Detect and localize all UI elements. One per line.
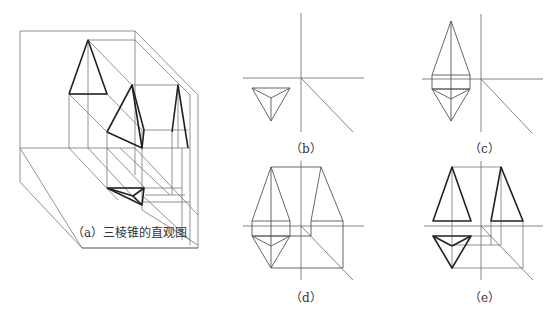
caption-e: （e） [469,288,500,305]
caption-d: （d） [290,288,322,305]
projection-planes-outline [20,31,198,248]
figure-c-front-top-view [422,14,543,133]
side-view-triangle [311,167,343,221]
figure-d-three-views [243,161,364,280]
pyramid-body [107,85,142,148]
figure-e-three-views-final [424,161,543,280]
caption-a: （a）三棱锥的直观图 [72,223,187,240]
diagram-canvas [0,0,555,317]
side-view-triangle [491,167,523,221]
caption-b: （b） [290,139,322,156]
caption-c: （c） [469,139,500,156]
figure-b-top-view [243,13,364,132]
figure-a-pictorial-view [20,31,198,248]
side-projection-triangle [172,85,188,148]
